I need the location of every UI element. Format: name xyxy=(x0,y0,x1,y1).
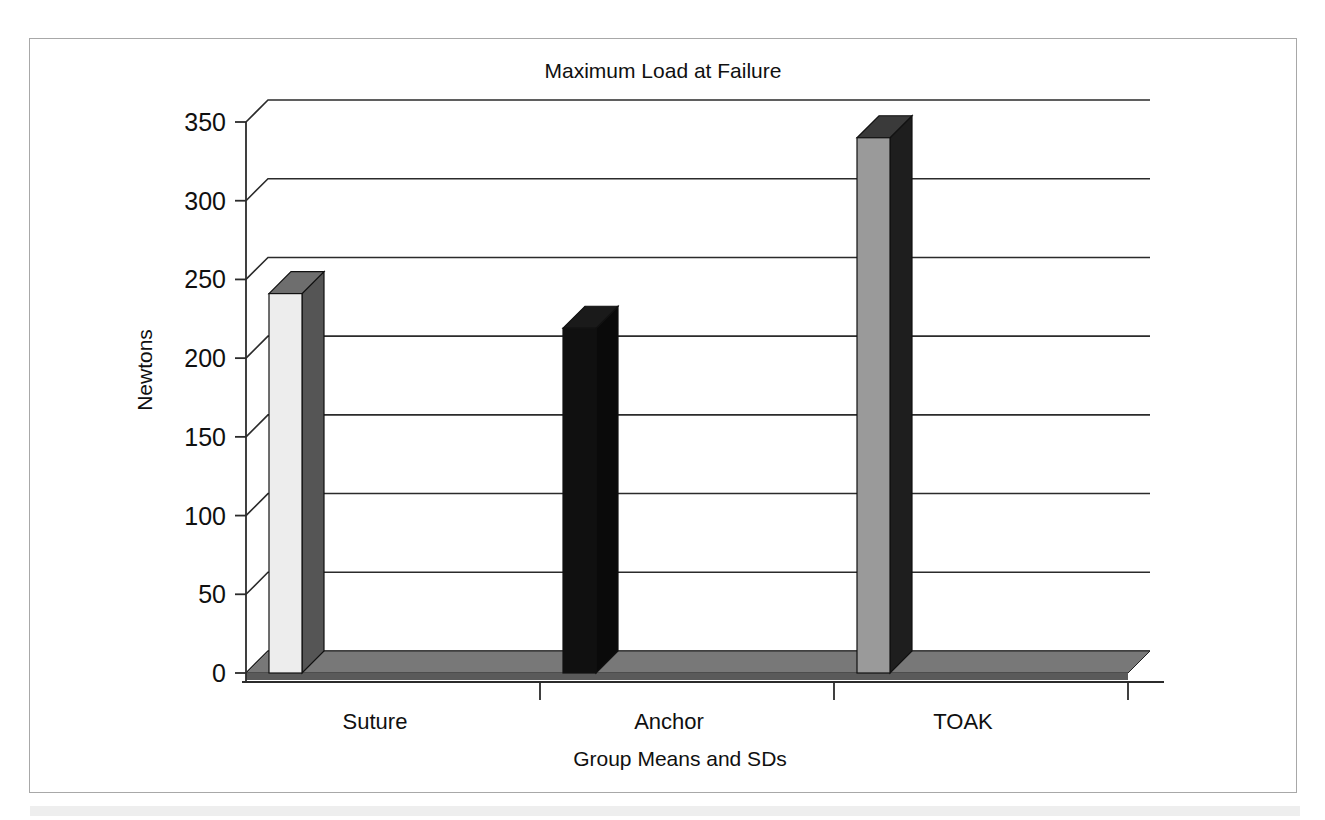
bar-suture[interactable] xyxy=(269,272,324,673)
category-label-anchor: Anchor xyxy=(634,709,704,734)
y-tick-label-250: 250 xyxy=(184,265,226,293)
gridline-50 xyxy=(246,572,1150,594)
category-label-suture: Suture xyxy=(343,709,408,734)
y-axis-title: Newtons xyxy=(133,329,156,411)
x-axis-title: Group Means and SDs xyxy=(573,747,787,770)
bar-anchor[interactable] xyxy=(563,306,618,673)
chart-floor xyxy=(246,651,1150,680)
bar-side-face-suture xyxy=(302,272,324,673)
category-label-toak: TOAK xyxy=(933,709,993,734)
bar-side-face-toak xyxy=(890,116,912,673)
gridline-100 xyxy=(246,494,1150,516)
y-tick-label-350: 350 xyxy=(184,108,226,136)
bar-side-face-anchor xyxy=(596,306,618,673)
bar-toak[interactable] xyxy=(857,116,912,673)
y-tick-label-150: 150 xyxy=(184,423,226,451)
gridlines-group xyxy=(246,100,1150,673)
y-tick-label-50: 50 xyxy=(198,580,226,608)
bar-front-face-toak xyxy=(857,138,890,673)
gridline-350 xyxy=(246,100,1150,122)
y-tick-labels-group: 050100150200250300350 xyxy=(184,108,226,687)
bar-front-face-anchor xyxy=(563,328,596,673)
floor-slab xyxy=(246,651,1150,673)
gridline-200 xyxy=(246,336,1150,358)
gridline-300 xyxy=(246,179,1150,201)
bar-front-face-suture xyxy=(269,294,302,673)
page-canvas: Maximum Load at Failure Newtons Group Me… xyxy=(0,0,1325,820)
floor-front-lip xyxy=(246,673,1128,680)
y-tick-label-200: 200 xyxy=(184,344,226,372)
bar-chart: Maximum Load at Failure Newtons Group Me… xyxy=(0,0,1325,820)
axis-group xyxy=(235,122,1164,700)
gridline-250 xyxy=(246,257,1150,279)
chart-title: Maximum Load at Failure xyxy=(545,59,782,82)
y-tick-label-0: 0 xyxy=(212,659,226,687)
category-labels-group: SutureAnchorTOAK xyxy=(343,709,993,734)
bars-group xyxy=(269,116,912,673)
y-tick-label-100: 100 xyxy=(184,502,226,530)
y-tick-label-300: 300 xyxy=(184,187,226,215)
gridline-150 xyxy=(246,415,1150,437)
